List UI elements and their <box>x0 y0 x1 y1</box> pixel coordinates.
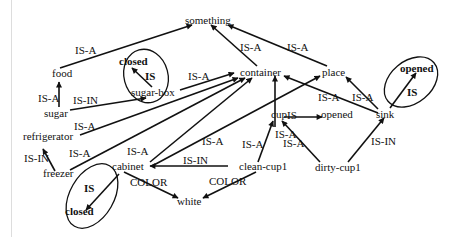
node-closed-sugarbox: closed <box>119 55 148 67</box>
node-opened-sink: opened <box>400 62 434 74</box>
node-clean-cup1: clean-cup1 <box>239 160 287 172</box>
edge-label: IS-A <box>283 137 304 149</box>
node-something: something <box>185 14 231 26</box>
node-dirty-cup1: dirty-cup1 <box>315 161 361 173</box>
edge-label: IS-IN <box>73 94 98 106</box>
edge-label: IS-IN <box>24 152 49 164</box>
node-sugar-box: sugar-box <box>131 86 175 98</box>
edge-label: IS-A <box>240 41 261 53</box>
edge-label: IS-A <box>74 120 95 132</box>
node-sugar: sugar <box>44 107 68 119</box>
edge-label: IS-A <box>287 41 308 53</box>
node-closed-cabinet: closed <box>65 205 94 217</box>
edge-label: IS-A <box>75 44 96 56</box>
edge-label: IS-IN <box>371 135 396 147</box>
edge-label: IS-A <box>352 91 373 103</box>
node-white: white <box>177 195 202 207</box>
node-freezer: freezer <box>43 167 74 179</box>
edge-label: IS-A <box>69 147 90 159</box>
node-refrigerator: refrigerator <box>23 130 73 142</box>
node-place: place <box>322 66 345 78</box>
edge-label: IS <box>84 182 94 194</box>
semantic-network-diagram: IS-A IS-A IS-IN IS IS-A IS-A IS-A IS-A I… <box>0 0 458 237</box>
edge-label: IS-A <box>127 145 148 157</box>
node-food: food <box>52 67 73 79</box>
edge-label: IS-A <box>188 70 209 82</box>
edge-label: IS-A <box>202 135 223 147</box>
edge-label: COLOR <box>130 176 168 188</box>
edge-label: IS <box>287 109 297 121</box>
edge-label: IS-A <box>38 92 59 104</box>
edge-cabinet-place <box>152 76 320 166</box>
opened-sink-ellipse <box>375 47 448 118</box>
edge-label: IS <box>145 70 155 82</box>
node-opened-cup: opened <box>321 108 353 120</box>
edge-label: IS-IN <box>183 154 208 166</box>
node-sink: sink <box>376 108 395 120</box>
node-cabinet: cabinet <box>112 160 144 172</box>
node-container: container <box>240 66 281 78</box>
edge-label: IS <box>407 86 417 98</box>
edge-label: IS-A <box>242 138 263 150</box>
node-cup: cup <box>271 108 287 120</box>
edge-label: IS-A <box>318 91 339 103</box>
edge-label: COLOR <box>209 175 247 187</box>
